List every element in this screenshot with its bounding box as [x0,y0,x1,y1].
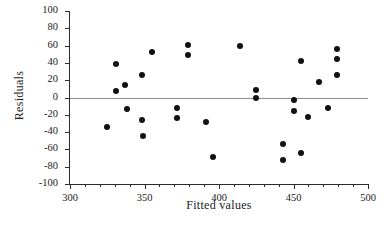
scatter-point [122,82,128,88]
y-axis-tick-label: -40 [30,125,58,137]
x-axis-minor-tick [100,184,101,187]
scatter-point [174,115,180,121]
x-axis-major-tick: 350 [145,184,146,189]
y-axis-tick: 40 [65,63,70,64]
scatter-point [253,95,259,101]
y-axis-tick: 0 [65,98,70,99]
scatter-point [140,133,146,139]
x-axis-major-tick: 500 [368,184,369,189]
y-axis-tick-label: -80 [30,160,58,172]
x-axis-major-tick: 400 [219,184,220,189]
scatter-point [210,154,216,160]
x-axis-minor-tick [264,184,265,187]
y-axis-tick-label: 20 [30,73,58,85]
y-axis-tick-label: 40 [30,56,58,68]
scatter-point [237,43,243,49]
scatter-point [185,42,191,48]
scatter-point [325,105,331,111]
x-axis-minor-tick [279,184,280,187]
scatter-point [104,124,110,130]
x-axis-minor-tick [130,184,131,187]
scatter-point [185,52,191,58]
y-axis-tick: 20 [65,80,70,81]
scatter-point [305,114,311,120]
scatter-point [113,61,119,67]
zero-residual-line [70,98,368,99]
x-axis-minor-tick [308,184,309,187]
y-axis-title: Residuals [8,0,32,190]
y-axis-tick-label: 100 [30,4,58,16]
residual-plot-figure: Residuals -100-80-60-40-20020406080100 3… [0,0,388,234]
y-axis-tick-label: 60 [30,39,58,51]
scatter-point [253,87,259,93]
scatter-point [203,119,209,125]
x-axis-minor-tick [204,184,205,187]
y-axis-tick: -40 [65,132,70,133]
y-axis-tick-label: 80 [30,21,58,33]
x-axis-minor-tick [323,184,324,187]
x-axis-minor-tick [189,184,190,187]
y-axis-tick-label: 0 [30,91,58,103]
scatter-point [316,79,322,85]
x-axis-minor-tick [159,184,160,187]
scatter-point [174,105,180,111]
scatter-point [298,150,304,156]
scatter-point [280,141,286,147]
y-axis-tick: -60 [65,149,70,150]
y-axis-tick: 60 [65,46,70,47]
scatter-point [291,108,297,114]
x-axis-minor-tick [353,184,354,187]
scatter-point [124,106,130,112]
x-axis-minor-tick [174,184,175,187]
scatter-point [334,72,340,78]
scatter-point [298,58,304,64]
scatter-point [334,56,340,62]
y-axis-tick: 80 [65,28,70,29]
y-axis-tick-label: -20 [30,108,58,120]
plot-area: -100-80-60-40-20020406080100 30035040045… [70,11,368,184]
y-axis-tick: -80 [65,167,70,168]
scatter-point [139,72,145,78]
x-axis-minor-tick [115,184,116,187]
scatter-point [139,117,145,123]
scatter-point [291,97,297,103]
y-axis-title-text: Residuals [13,70,28,119]
x-axis-title: Fitted values [70,198,368,213]
scatter-point [149,49,155,55]
x-axis-minor-tick [85,184,86,187]
scatter-point [280,157,286,163]
y-axis-tick: -20 [65,115,70,116]
y-axis-tick-label: -60 [30,142,58,154]
x-axis-major-tick: 300 [70,184,71,189]
scatter-point [334,46,340,52]
x-axis-minor-tick [249,184,250,187]
x-axis-major-tick: 450 [294,184,295,189]
scatter-point [113,88,119,94]
x-axis-minor-tick [338,184,339,187]
x-axis-minor-tick [234,184,235,187]
y-axis-tick: 100 [65,11,70,12]
y-axis-tick-label: -100 [30,177,58,189]
